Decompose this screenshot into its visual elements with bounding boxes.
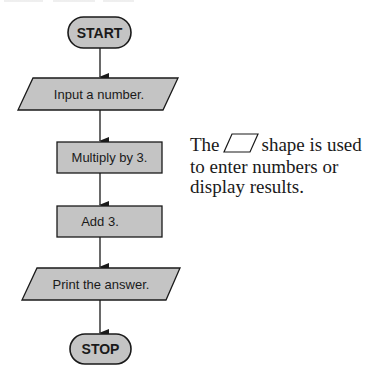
multiply-process-box: Multiply by 3. [57, 142, 162, 173]
annotation-text: Theshape is used to enter numbers or dis… [190, 133, 385, 197]
annotation-line-3: display results. [190, 177, 385, 197]
add-label: Add 3. [81, 214, 119, 229]
annotation-line-2: to enter numbers or [190, 157, 385, 177]
multiply-label: Multiply by 3. [72, 150, 148, 165]
stop-label: STOP [82, 341, 120, 357]
start-terminal: START [68, 17, 131, 48]
annotation-line-1: Theshape is used [190, 133, 385, 157]
annotation-shape-is-used: shape is used [262, 134, 362, 155]
input-parallelogram: Input a number. [18, 78, 178, 110]
parallelogram-icon [223, 133, 259, 157]
add-process-box: Add 3. [57, 206, 162, 237]
input-label: Input a number. [54, 87, 144, 102]
annotation-the: The [190, 134, 220, 155]
print-parallelogram: Print the answer. [22, 268, 180, 300]
stop-terminal: STOP [70, 334, 131, 364]
print-label: Print the answer. [53, 277, 150, 292]
start-label: START [77, 25, 123, 41]
